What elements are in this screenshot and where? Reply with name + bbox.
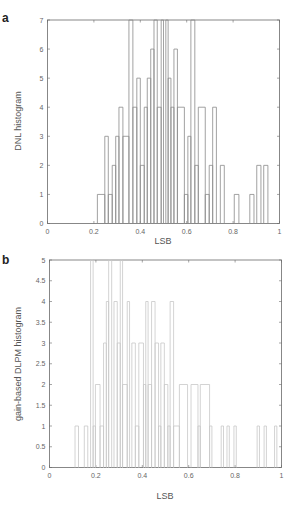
x-tick-label: 0.8 bbox=[228, 228, 238, 235]
y-tick-label: 3.5 bbox=[36, 319, 46, 326]
x-tick-label: 1 bbox=[280, 472, 284, 479]
x-axis-label-b: LSB bbox=[156, 491, 173, 501]
chart-panel-b: b gain-based DLPM histogram LSB 00.20.40… bbox=[2, 253, 284, 501]
y-tick-label: 2.5 bbox=[36, 360, 46, 367]
y-tick-label: 4 bbox=[42, 298, 46, 305]
chart-panel-a: a DNL histogram LSB 00.20.40.60.81012345… bbox=[2, 11, 282, 246]
y-tick-label: 4.5 bbox=[36, 277, 46, 284]
histogram-steps bbox=[97, 20, 268, 224]
y-tick-label: 0.5 bbox=[36, 443, 46, 450]
x-tick-label: 1 bbox=[278, 228, 282, 235]
y-tick-label: 7 bbox=[40, 17, 44, 24]
y-tick-label: 3 bbox=[42, 340, 46, 347]
x-tick-label: 0.4 bbox=[135, 228, 145, 235]
x-tick-label: 0.4 bbox=[137, 472, 147, 479]
plot-area-b: 00.20.40.60.8100.511.522.533.544.55 bbox=[36, 257, 284, 479]
y-axis-label-b: gain-based DLPM histogram bbox=[13, 307, 23, 421]
y-tick-label: 1 bbox=[42, 423, 46, 430]
plot-area-a: 00.20.40.60.8101234567 bbox=[40, 17, 282, 235]
y-tick-label: 6 bbox=[40, 46, 44, 53]
histogram-steps bbox=[75, 260, 277, 468]
y-tick-label: 5 bbox=[42, 257, 46, 264]
x-tick-label: 0 bbox=[48, 472, 52, 479]
x-tick-label: 0.8 bbox=[230, 472, 240, 479]
x-tick-label: 0.2 bbox=[91, 472, 101, 479]
y-tick-label: 1.5 bbox=[36, 402, 46, 409]
x-tick-label: 0.6 bbox=[182, 228, 192, 235]
y-tick-label: 2 bbox=[42, 381, 46, 388]
x-tick-label: 0.2 bbox=[89, 228, 99, 235]
y-tick-label: 5 bbox=[40, 75, 44, 82]
figure: a DNL histogram LSB 00.20.40.60.81012345… bbox=[0, 0, 294, 515]
x-tick-label: 0 bbox=[46, 228, 50, 235]
y-tick-label: 2 bbox=[40, 162, 44, 169]
x-axis-label-a: LSB bbox=[154, 236, 171, 246]
panel-label-a: a bbox=[2, 11, 9, 25]
y-axis-label-a: DNL histogram bbox=[13, 91, 23, 151]
y-tick-label: 0 bbox=[40, 220, 44, 227]
y-tick-label: 1 bbox=[40, 191, 44, 198]
y-tick-label: 4 bbox=[40, 104, 44, 111]
panel-label-b: b bbox=[2, 253, 9, 267]
x-tick-label: 0.6 bbox=[184, 472, 194, 479]
y-tick-label: 0 bbox=[42, 464, 46, 471]
y-tick-label: 3 bbox=[40, 133, 44, 140]
